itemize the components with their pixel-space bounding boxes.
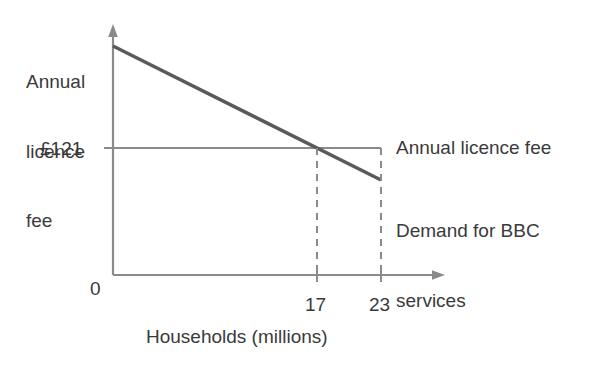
price-axis-value-label: £121 xyxy=(40,137,82,160)
origin-label: 0 xyxy=(90,277,101,300)
y-axis-title-line-1: Annual xyxy=(26,70,85,93)
demand-line-annotation-line-1: Demand for BBC xyxy=(396,219,540,242)
x-tick-label-17: 17 xyxy=(305,293,326,316)
x-axis-title: Households (millions) xyxy=(146,325,328,348)
fee-line-annotation: Annual licence fee xyxy=(396,136,551,159)
economics-diagram: Annual licence fee £121 0 17 23 Househol… xyxy=(0,0,595,370)
x-tick-label-23: 23 xyxy=(369,293,390,316)
demand-line-annotation: Demand for BBC services xyxy=(396,173,540,358)
demand-curve xyxy=(113,46,381,180)
y-axis xyxy=(108,24,118,275)
demand-line-annotation-line-2: services xyxy=(396,289,540,312)
y-axis-title-line-3: fee xyxy=(26,209,85,232)
